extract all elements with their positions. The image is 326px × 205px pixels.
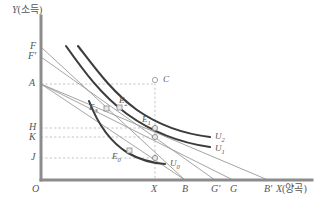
x-axis-title: X(양곡) <box>276 184 307 194</box>
axes <box>41 16 312 180</box>
curve-label-U0-subscript: 0 <box>177 163 180 170</box>
marker-C <box>152 77 157 82</box>
point-label-E1-subscript: 1 <box>148 119 151 126</box>
x-tick-B: B <box>182 184 188 194</box>
budget-line-Fprime-Gprime <box>41 57 215 180</box>
x-tick-G-prime: G′ <box>211 184 220 194</box>
point-label-E2-subscript: 2 <box>125 100 128 107</box>
point-label-C: C <box>163 75 169 84</box>
point-label-E2: E2 <box>119 96 128 107</box>
curve-label-U1-subscript: 1 <box>222 148 225 155</box>
curve-label-U1: U1 <box>215 144 225 155</box>
y-tick-J: J <box>31 152 35 162</box>
y-tick-F-prime: F′ <box>28 51 36 61</box>
marker-E1 <box>152 125 157 130</box>
marker-J-point <box>152 155 157 160</box>
origin-label: O <box>32 184 39 194</box>
curve-label-U0: U0 <box>170 159 180 170</box>
x-tick-G: G <box>230 184 237 194</box>
y-tick-K: K <box>29 132 36 142</box>
point-label-E3-subscript: 3 <box>95 107 98 114</box>
budget-line-A-G <box>41 84 233 180</box>
point-label-E0: E0 <box>112 152 121 163</box>
y-axis-title-unit: (소득) <box>18 4 43 15</box>
point-label-E1: E1 <box>142 115 151 126</box>
budget-line-A-Bprime <box>41 84 268 180</box>
curve-U1 <box>66 46 210 147</box>
x-tick-B-prime: B′ <box>264 184 272 194</box>
economics-indifference-curve-figure: Y(소득) X(양곡) O F F′ A H K J X B G′ G B′ C… <box>0 0 326 205</box>
x-axis-title-unit: (양곡) <box>282 183 307 194</box>
curve-label-U2: U2 <box>215 132 225 143</box>
point-label-E3: E3 <box>89 103 98 114</box>
figure-canvas <box>0 0 326 205</box>
marker-E3 <box>104 106 109 111</box>
curve-label-U2-subscript: 2 <box>222 136 225 143</box>
y-tick-A: A <box>29 78 35 88</box>
marker-K-point <box>152 134 157 139</box>
x-tick-X: X <box>151 184 157 194</box>
curve-U0 <box>89 101 165 164</box>
point-label-E0-subscript: 0 <box>118 156 121 163</box>
budget-line-A-B <box>41 84 185 180</box>
y-axis-title: Y(소득) <box>12 5 42 15</box>
guide-lines <box>41 79 155 180</box>
marker-E0 <box>127 148 132 153</box>
